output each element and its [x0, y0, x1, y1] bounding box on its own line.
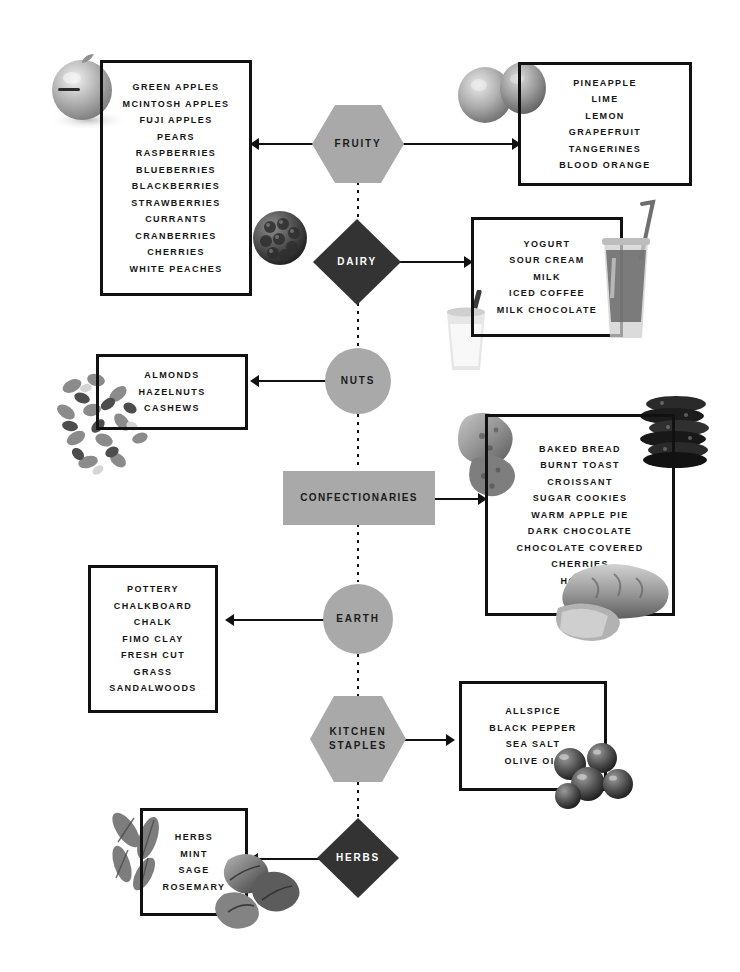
arrowhead-nuts-left [250, 375, 259, 387]
arrowhead-earth-left [225, 614, 234, 626]
list-item: LIME [591, 91, 618, 108]
fruity-left-list-box: GREEN APPLES MCINTOSH APPLES FUJI APPLES… [100, 60, 252, 296]
list-item: CHOCOLATE COVERED [516, 540, 643, 557]
list-item: CHERRIES [147, 244, 205, 261]
list-item: SAGE [178, 862, 209, 879]
list-item: WARM APPLE PIE [531, 507, 628, 524]
list-item: DARK CHOCOLATE [528, 523, 632, 540]
dairy-list-box: YOGURT SOUR CREAM MILK ICED COFFEE MILK … [471, 217, 623, 337]
list-item: ALMONDS [144, 367, 199, 384]
list-item: POTTERY [127, 581, 179, 598]
earth-list-box: POTTERY CHALKBOARD CHALK FIMO CLAY FRESH… [88, 565, 218, 713]
connector-earth-left [228, 619, 328, 621]
nuts-list-box: ALMONDS HAZELNUTS CASHEWS [96, 354, 248, 430]
list-item: PEARS [157, 129, 195, 146]
list-item: OLIVE OIL [504, 753, 561, 770]
list-item: FIMO CLAY [122, 631, 183, 648]
list-item: SUGAR COOKIES [533, 490, 628, 507]
list-item: FUJI APPLES [139, 112, 212, 129]
list-item: YOGURT [524, 236, 571, 253]
connector-kitchen-right [402, 739, 450, 741]
list-item: WHITE PEACHES [129, 261, 222, 278]
node-label-dairy: DAIRY [337, 255, 377, 269]
kitchen-staples-list-box: ALLSPICE BLACK PEPPER SEA SALT OLIVE OIL [459, 681, 607, 791]
list-item: MILK [533, 269, 561, 286]
list-item: MILK CHOCOLATE [497, 302, 597, 319]
node-dairy[interactable]: DAIRY [313, 219, 401, 305]
list-item: MINT [180, 846, 208, 863]
connector-fruity-left [253, 143, 315, 145]
connector-earth-kitchen [357, 654, 359, 696]
list-item: ALLSPICE [505, 703, 561, 720]
node-label-kitchen-staples-line2: STAPLES [329, 739, 387, 753]
node-label-fruity: FRUITY [335, 137, 382, 151]
node-label-kitchen-staples-line1: KITCHEN [329, 725, 387, 739]
list-item: RASPBERRIES [136, 145, 216, 162]
node-nuts[interactable]: NUTS [325, 348, 391, 414]
connector-dairy-right [396, 261, 468, 263]
list-item: PINEAPPLE [573, 75, 637, 92]
connector-kitchen-herbs [357, 782, 359, 820]
node-label-kitchen-staples: KITCHEN STAPLES [329, 725, 387, 753]
connector-nuts-left [253, 380, 328, 382]
node-fruity[interactable]: FRUITY [312, 105, 404, 183]
connector-confectionaries-earth [357, 524, 359, 582]
list-item: HERBS [175, 829, 214, 846]
list-item: BLUEBERRIES [136, 162, 216, 179]
list-item: SOUR CREAM [509, 252, 585, 269]
list-item: CHERRIES [551, 556, 609, 573]
list-item: BURNT TOAST [540, 457, 620, 474]
list-item: FRESH CUT [121, 647, 185, 664]
node-kitchen-staples[interactable]: KITCHEN STAPLES [310, 696, 406, 782]
fruity-right-list-box: PINEAPPLE LIME LEMON GRAPEFRUIT TANGERIN… [518, 62, 692, 186]
node-earth[interactable]: EARTH [323, 584, 393, 654]
infographic-canvas: GREEN APPLES MCINTOSH APPLES FUJI APPLES… [0, 0, 740, 972]
list-item: BLACKBERRIES [132, 178, 220, 195]
list-item: CROISSANT [547, 474, 613, 491]
list-item: ICED COFFEE [509, 285, 585, 302]
arrowhead-dairy-right [464, 256, 473, 268]
connector-confectionaries-right [434, 498, 482, 500]
list-item: TANGERINES [569, 141, 641, 158]
list-item: GRAPEFRUIT [569, 124, 642, 141]
list-item: CURRANTS [145, 211, 207, 228]
list-item: LEMON [585, 108, 625, 125]
list-item: BAKED BREAD [539, 441, 621, 458]
list-item: SANDALWOODS [109, 680, 196, 697]
arrowhead-fruity-left [250, 138, 259, 150]
list-item: ROSEMARY [163, 879, 226, 896]
list-item: CHALK [134, 614, 173, 631]
list-item: GRASS [133, 664, 172, 681]
connector-fruity-right [401, 143, 516, 145]
list-item: CASHEWS [144, 400, 200, 417]
list-item: CHALKBOARD [114, 598, 193, 615]
arrowhead-confectionaries-right [478, 493, 487, 505]
list-item: STRAWBERRIES [131, 195, 220, 212]
list-item: BLOOD ORANGE [559, 157, 650, 174]
node-label-confectionaries: CONFECTIONARIES [300, 491, 418, 505]
list-item: SEA SALT [506, 736, 561, 753]
connector-herbs-left [252, 858, 320, 860]
connector-nuts-confectionaries [357, 414, 359, 470]
node-label-nuts: NUTS [341, 374, 375, 388]
confectionaries-list-box: BAKED BREAD BURNT TOAST CROISSANT SUGAR … [485, 414, 675, 616]
connector-dairy-nuts [357, 303, 359, 349]
list-item: BLACK PEPPER [489, 720, 576, 737]
list-item: MCINTOSH APPLES [122, 96, 229, 113]
node-confectionaries[interactable]: CONFECTIONARIES [283, 471, 435, 525]
list-item: CRANBERRIES [135, 228, 216, 245]
node-herbs[interactable]: HERBS [317, 818, 399, 898]
arrowhead-kitchen-right [446, 734, 455, 746]
list-item: HAZELNUTS [138, 384, 205, 401]
node-label-earth: EARTH [336, 612, 379, 626]
node-label-herbs: HERBS [336, 851, 380, 865]
list-item: GREEN APPLES [133, 79, 220, 96]
list-item: HONEY [560, 573, 599, 590]
arrowhead-herbs-left [249, 853, 258, 865]
herbs-list-box: HERBS MINT SAGE ROSEMARY [140, 808, 248, 916]
blackberry-photo [248, 205, 312, 269]
arrowhead-fruity-right [512, 138, 521, 150]
